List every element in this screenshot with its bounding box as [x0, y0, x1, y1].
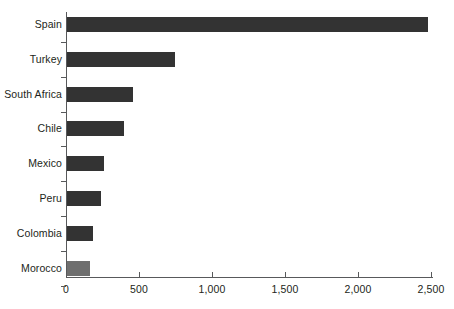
y-axis-line	[66, 12, 67, 278]
bar-chart: SpainTurkeySouth AfricaChileMexicoPeruCo…	[0, 0, 454, 309]
x-axis-tick	[431, 272, 432, 277]
category-label-morocco: Morocco	[0, 263, 62, 274]
x-axis-tick-label: 1,500	[272, 283, 299, 295]
bar-south-africa[interactable]	[67, 87, 133, 102]
x-axis-tick	[285, 272, 286, 277]
y-axis-tick	[61, 42, 66, 43]
bar-chile[interactable]	[67, 121, 124, 136]
y-axis-tick	[61, 112, 66, 113]
bar-colombia[interactable]	[67, 226, 93, 241]
bar-peru[interactable]	[67, 191, 101, 206]
category-label-spain: Spain	[0, 19, 62, 30]
x-axis-tick-label: 1,000	[199, 283, 226, 295]
category-label-chile: Chile	[0, 123, 62, 134]
x-axis-tick	[212, 272, 213, 277]
x-axis-tick	[139, 272, 140, 277]
category-label-mexico: Mexico	[0, 158, 62, 169]
x-axis-tick-label: 2,500	[418, 283, 445, 295]
plot-area	[67, 12, 432, 277]
bar-morocco[interactable]	[67, 261, 90, 276]
category-label-turkey: Turkey	[0, 54, 62, 65]
x-axis-tick-label: 2,000	[345, 283, 372, 295]
y-axis-tick	[61, 216, 66, 217]
category-label-south-africa: South Africa	[0, 89, 62, 100]
category-label-peru: Peru	[0, 193, 62, 204]
y-axis-tick	[61, 181, 66, 182]
y-axis-tick	[61, 251, 66, 252]
bar-spain[interactable]	[67, 17, 428, 32]
category-label-colombia: Colombia	[0, 228, 62, 239]
x-axis-tick-label: 500	[130, 283, 148, 295]
bar-turkey[interactable]	[67, 52, 175, 67]
bar-mexico[interactable]	[67, 156, 104, 171]
x-axis-line	[66, 277, 433, 278]
category-axis-labels: SpainTurkeySouth AfricaChileMexicoPeruCo…	[0, 0, 62, 309]
y-axis-tick	[61, 286, 66, 287]
y-axis-tick	[61, 146, 66, 147]
x-axis-tick	[66, 272, 67, 277]
x-axis-tick	[358, 272, 359, 277]
y-axis-tick	[61, 77, 66, 78]
